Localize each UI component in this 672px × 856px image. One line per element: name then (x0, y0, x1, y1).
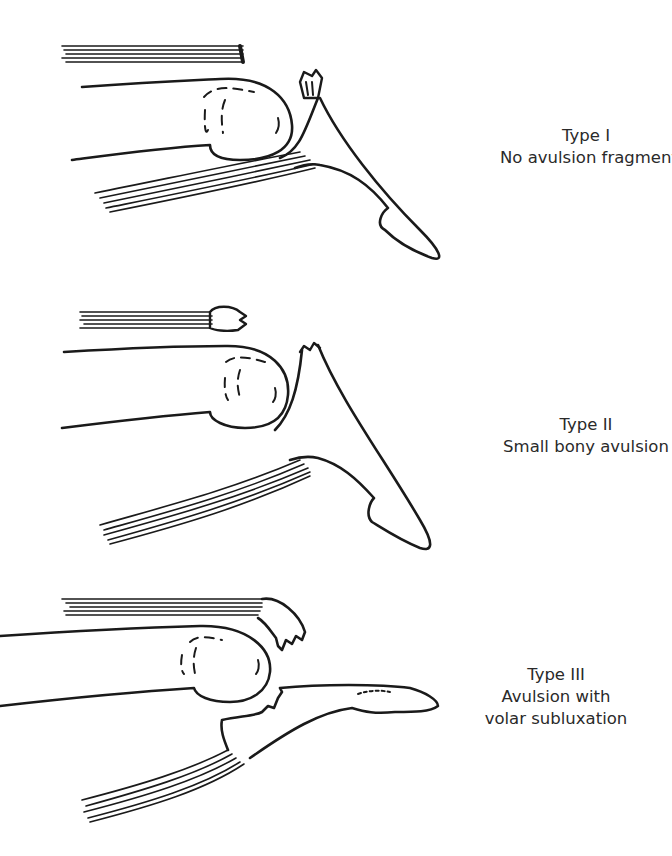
extensor-tendon (62, 46, 243, 62)
type-2-label: Type II Small bony avulsion (500, 414, 672, 458)
flexor-tendon (82, 750, 244, 822)
type-3-caption-line-1: Avulsion with (470, 686, 642, 708)
type-2-title: Type II (500, 414, 672, 436)
panel-type-3: Type III Avulsion with volar subluxation (0, 580, 672, 856)
type-2-caption: Small bony avulsion (500, 436, 672, 458)
type-1-label: Type I No avulsion fragment (500, 125, 672, 169)
flexor-tendon (95, 152, 315, 212)
middle-phalanx (0, 626, 270, 706)
avulsed-fragment (258, 599, 305, 650)
avulsed-fragment (210, 307, 246, 331)
middle-phalanx (72, 79, 292, 160)
flexor-tendon (100, 460, 310, 544)
extensor-tendon (62, 599, 262, 615)
panel-type-1: Type I No avulsion fragment (0, 0, 672, 270)
type-3-label: Type III Avulsion with volar subluxation (470, 664, 642, 730)
type-3-title: Type III (470, 664, 642, 686)
type-3-caption-line-2: volar subluxation (470, 708, 642, 730)
type-1-title: Type I (500, 125, 672, 147)
middle-phalanx (62, 346, 288, 428)
extensor-tendon (80, 312, 212, 328)
type-1-caption: No avulsion fragment (500, 147, 672, 169)
distal-phalanx (280, 98, 439, 259)
distal-phalanx (275, 345, 430, 549)
panel-type-2: Type II Small bony avulsion (0, 290, 672, 570)
